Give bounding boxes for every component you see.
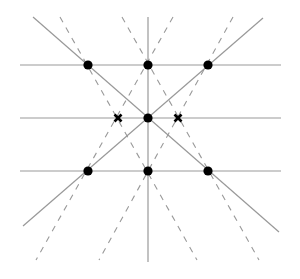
point <box>143 113 152 122</box>
solid-diagonal-lines <box>23 17 279 232</box>
point <box>83 60 92 69</box>
dashed-line <box>60 17 197 260</box>
point <box>203 60 212 69</box>
dashed-line <box>99 17 233 260</box>
point <box>203 166 212 175</box>
dashed-line <box>122 17 259 260</box>
geometry-diagram <box>0 0 300 279</box>
point <box>83 166 92 175</box>
diagonal-line <box>23 18 263 226</box>
dashed-line <box>36 17 173 260</box>
point <box>143 166 152 175</box>
point <box>143 60 152 69</box>
